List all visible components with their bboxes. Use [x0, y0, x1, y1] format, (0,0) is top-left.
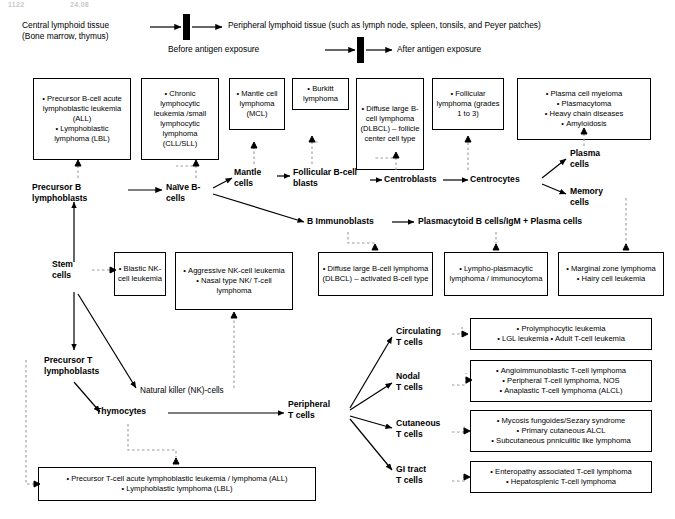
- legend-divider-bar-2: [357, 37, 364, 63]
- list-item: Blastic NK-cell leukemia: [118, 264, 162, 284]
- list-item: Lympho-plasmacytic lymphoma / immunocyto…: [448, 264, 544, 284]
- list-item: Enteropathy associated T-cell lymphoma: [490, 467, 631, 477]
- box-gi-t-neoplasms: Enteropathy associated T-cell lymphoma H…: [470, 461, 652, 493]
- list-item: Mycosis fungoides/Sezary syndrome: [497, 416, 625, 426]
- list-item: Heavy chain diseases: [545, 109, 624, 119]
- list-item: Plasmacytoma: [557, 99, 612, 109]
- list-item: Follicular lymphoma (grades 1 to 3): [436, 89, 500, 119]
- list-item: Chronic lymphocytic leukemia /small lymp…: [145, 89, 215, 148]
- label-follicular-b-cell-blasts: Follicular B-cell blasts: [293, 167, 373, 188]
- list-item: Subcutaneous pnniculitic like lymphoma: [491, 436, 630, 446]
- list-item: Primary cutaneous ALCL: [517, 426, 606, 436]
- list-item: LGL leukemia • Adult T-cell leukemia: [497, 334, 625, 344]
- list-item: Angioimmunoblastic T-cell lymphoma: [496, 366, 626, 376]
- box-precursor-b-neoplasms: Precursor B-cell acute lymphoblastic leu…: [33, 78, 131, 160]
- box-dlbcl-follicle-center: Diffuse large B-cell lymphoma (DLBCL) – …: [356, 78, 424, 170]
- box-follicular-lymphoma: Follicular lymphoma (grades 1 to 3): [432, 78, 504, 130]
- list-item: Precursor T-cell acute lymphoblastic leu…: [66, 474, 287, 484]
- box-lymphoplasmacytic: Lympho-plasmacytic lymphoma / immunocyto…: [444, 252, 548, 296]
- label-plasma-cells: Plasma cells: [570, 148, 616, 169]
- label-stem-cells: Stem cells: [52, 259, 96, 280]
- legend-divider-bar-1: [183, 14, 190, 40]
- label-memory-cells: Memory cells: [570, 186, 620, 207]
- legend-central-label: Central lymphoid tissue (Bone marrow, th…: [22, 20, 162, 43]
- list-item: Lymphoblastic lymphoma (LBL): [122, 484, 233, 494]
- label-nodal-t-cells: Nodal T cells: [396, 371, 452, 392]
- list-item: Amyloidosis: [561, 119, 606, 129]
- label-peripheral-t-cells: Peripheral T cells: [288, 399, 346, 420]
- list-item: Mantle cell lymphoma (MCL): [233, 89, 281, 119]
- label-centrocytes: Centrocytes: [470, 174, 538, 185]
- label-natural-killer-cells: Natural killer (NK)-cells: [140, 386, 280, 396]
- label-gi-tract-t-cells: GI tract T cells: [396, 464, 452, 485]
- box-cll-sll: Chronic lymphocytic leukemia /small lymp…: [141, 78, 219, 160]
- list-item: Anaplastic T-cell lymphoma (ALCL): [499, 386, 622, 396]
- label-plasmacytoid-b-cells: Plasmacytoid B cells/IgM + Plasma cells: [418, 216, 638, 227]
- box-dlbcl-activated: Diffuse large B-cell lymphoma (DLBCL) – …: [318, 252, 433, 296]
- list-item: Marginal zone lymphoma: [566, 264, 656, 274]
- lymphocyte-maturation-diagram: 1122 24.08 Central lymphoid tissue (Bone…: [0, 0, 675, 519]
- box-aggressive-nk: Aggressive NK-cell leukemia Nasal type N…: [175, 252, 293, 310]
- box-blastic-nk: Blastic NK-cell leukemia: [114, 252, 166, 296]
- box-precursor-t-neoplasms: Precursor T-cell acute lymphoblastic leu…: [38, 467, 316, 501]
- list-item: Diffuse large B-cell lymphoma (DLBCL) – …: [322, 264, 429, 284]
- label-cutaneous-t-cells: Cutaneous T cells: [396, 418, 456, 439]
- legend-peripheral-label: Peripheral lymphoid tissue (such as lymp…: [228, 20, 673, 31]
- list-item: Peripheral T-cell lymphoma, NOS: [502, 376, 619, 386]
- label-mantle-cells: Mantle cells: [234, 167, 278, 188]
- list-item: Hepatosplenic T-cell lymphoma: [506, 477, 616, 487]
- page-header-right: 24.08: [70, 1, 89, 8]
- box-marginal-zone: Marginal zone lymphoma Hairy cell leukem…: [558, 252, 664, 296]
- label-b-immunoblasts: B Immunoblasts: [307, 216, 395, 227]
- label-precursor-t-lymphoblasts: Precursor T lymphoblasts: [44, 355, 136, 376]
- page-header-left: 1122: [8, 1, 24, 8]
- list-item: Diffuse large B-cell lymphoma (DLBCL) – …: [360, 104, 420, 143]
- box-mantle-cell-lymphoma: Mantle cell lymphoma (MCL): [229, 78, 285, 130]
- label-thymocytes: Thymocytes: [96, 406, 176, 417]
- list-item: Plasma cell myeloma: [546, 89, 623, 99]
- legend-before-label: Before antigen exposure: [168, 44, 328, 55]
- legend-after-label: After antigen exposure: [397, 44, 567, 55]
- list-item: Lymphoblastic lymphoma (LBL): [37, 124, 127, 144]
- list-item: Prolymphocytic leukemia: [517, 324, 606, 334]
- label-precursor-b-lymphoblasts: Precursor B lymphoblasts: [32, 182, 124, 203]
- box-nodal-t-neoplasms: Angioimmunoblastic T-cell lymphoma Perip…: [470, 360, 652, 402]
- box-circulating-t-neoplasms: Prolymphocytic leukemia LGL leukemia • A…: [470, 318, 652, 350]
- list-item: Aggressive NK-cell leukemia: [183, 266, 284, 276]
- box-plasma-cell-neoplasms: Plasma cell myeloma Plasmacytoma Heavy c…: [517, 78, 651, 140]
- box-cutaneous-t-neoplasms: Mycosis fungoides/Sezary syndrome Primar…: [470, 410, 652, 452]
- list-item: Hairy cell leukemia: [577, 274, 646, 284]
- label-centroblasts: Centroblasts: [384, 174, 454, 185]
- label-circulating-t-cells: Circulating T cells: [396, 326, 452, 347]
- label-naive-b-cells: Naïve B- cells: [166, 182, 216, 203]
- list-item: Precursor B-cell acute lymphoblastic leu…: [37, 94, 127, 124]
- box-burkitt-lymphoma: Burkitt lymphoma: [292, 78, 349, 110]
- list-item: Burkitt lymphoma: [296, 84, 345, 104]
- list-item: Nasal type NK/ T-cell lymphoma: [179, 276, 289, 296]
